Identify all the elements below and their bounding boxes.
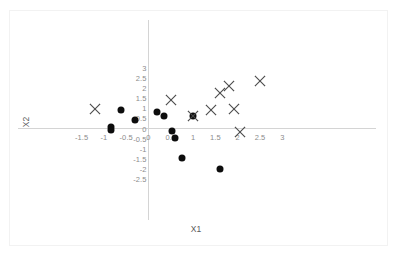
y-tick-label: 3	[133, 63, 147, 72]
y-tick-label: 0.5	[133, 114, 147, 123]
y-tick-label: -1	[133, 144, 147, 153]
data-point-circle	[190, 113, 197, 120]
x-tick-label: 3	[280, 133, 284, 142]
x-tick-label: 1	[191, 133, 195, 142]
y-tick-label: -1.5	[133, 154, 147, 163]
y-tick-label: 1	[133, 104, 147, 113]
x-tick-label: 0.5	[165, 133, 176, 142]
data-point-cross	[187, 110, 200, 123]
x-tick-label: 0	[146, 133, 150, 142]
y-axis-line	[148, 20, 149, 220]
data-point-cross	[228, 103, 241, 116]
x-tick-label: 1.5	[210, 133, 221, 142]
y-tick-label: -2	[133, 164, 147, 173]
scatter-plot-chart: -1.5-1-0.500.511.522.53 32.521.510.50-0.…	[0, 0, 397, 262]
y-tick-label: -0.5	[133, 134, 147, 143]
data-point-circle	[178, 155, 185, 162]
y-tick-label: 0	[133, 124, 147, 133]
x-tick-label: -0.5	[120, 133, 133, 142]
data-point-cross	[254, 75, 267, 88]
data-point-circle	[216, 165, 223, 172]
data-point-cross	[164, 93, 177, 106]
x-axis-title: X1	[191, 224, 201, 234]
y-tick-label: 1.5	[133, 94, 147, 103]
data-point-cross	[88, 102, 101, 115]
data-point-circle	[161, 112, 168, 119]
y-tick-label: -2.5	[133, 175, 147, 184]
plot-area: -1.5-1-0.500.511.522.53 32.521.510.50-0.…	[0, 0, 397, 262]
data-point-cross	[222, 80, 235, 93]
x-tick-label: 2.5	[255, 133, 266, 142]
x-tick-label: -1	[100, 133, 107, 142]
data-point-cross	[204, 104, 217, 117]
data-point-circle	[154, 109, 161, 116]
data-point-circle	[117, 106, 124, 113]
x-tick-label: -1.5	[75, 133, 88, 142]
x-tick-label: 2	[236, 133, 240, 142]
y-tick-label: 2.5	[133, 74, 147, 83]
x-axis-line	[18, 128, 376, 129]
y-tick-label: 2	[133, 84, 147, 93]
data-point-cross	[213, 86, 226, 99]
y-axis-title: X2	[21, 117, 31, 127]
